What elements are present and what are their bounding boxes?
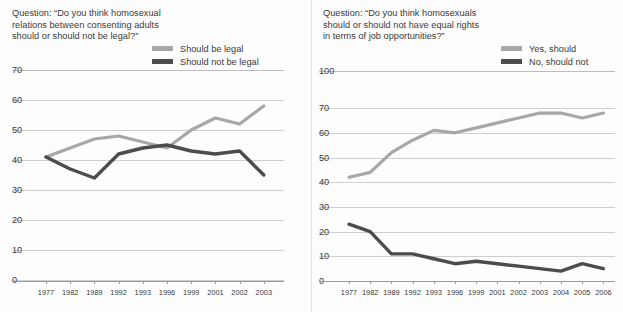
chart-page: Question: “Do you think homosexual relat…: [0, 0, 623, 312]
series-line: [349, 113, 603, 177]
series-line: [46, 145, 264, 178]
series-line: [46, 106, 264, 157]
series-line: [349, 224, 603, 271]
chart-panel-legality: Question: “Do you think homosexual relat…: [0, 0, 311, 312]
chart-panel-job-rights: Question: “Do you think homosexuals shou…: [311, 0, 623, 312]
series-layer: [311, 0, 623, 312]
series-layer: [0, 0, 311, 312]
plot-area-job-rights: 0102030405060701001977198219891992199319…: [311, 0, 623, 312]
plot-area-legality: 0102030405060701977198219891992199319961…: [0, 0, 311, 312]
